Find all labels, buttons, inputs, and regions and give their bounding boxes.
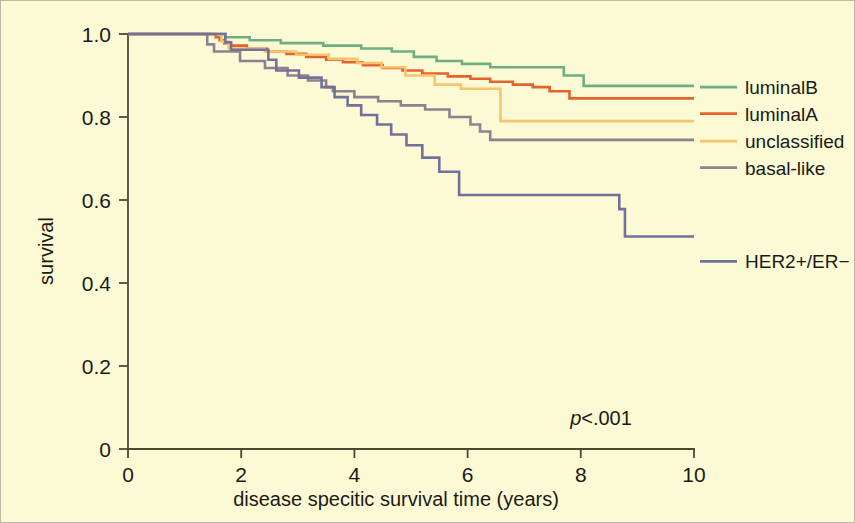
y-tick-label-0: 0	[99, 438, 111, 461]
x-tick-label-0: 0	[122, 463, 134, 486]
x-axis-title: disease specitic survival time (years)	[233, 488, 559, 510]
curve-luminalb	[128, 34, 694, 86]
y-tick-label-0.6: 0.6	[82, 189, 111, 212]
x-tick-label-6: 6	[462, 463, 474, 486]
p-value-annotation: p<.001	[569, 407, 632, 429]
x-tick-label-8: 8	[575, 463, 587, 486]
chart-plot-area: 0246810 00.20.40.60.81.0 luminalBluminal…	[1, 1, 855, 523]
y-tick-label-0.4: 0.4	[82, 272, 112, 295]
x-tick-label-2: 2	[235, 463, 247, 486]
legend-label-luminalb: luminalB	[745, 77, 818, 98]
x-tick-label-4: 4	[349, 463, 361, 486]
x-tick-label-10: 10	[682, 463, 705, 486]
p-symbol: p	[569, 407, 581, 429]
x-axis-ticks	[128, 449, 694, 458]
y-axis-ticks	[119, 34, 128, 449]
y-axis-tick-labels: 00.20.40.60.81.0	[82, 23, 112, 461]
survival-curves	[128, 34, 694, 237]
y-axis-title: survival	[35, 217, 57, 285]
p-value-rest: <.001	[581, 407, 632, 429]
y-tick-label-0.2: 0.2	[82, 355, 111, 378]
y-tick-label-1.0: 1.0	[82, 23, 111, 46]
x-axis-tick-labels: 0246810	[122, 463, 706, 486]
legend-label-luminala: luminalA	[745, 104, 818, 125]
figure-panel: 0246810 00.20.40.60.81.0 luminalBluminal…	[0, 0, 855, 523]
legend-label-unclassified: unclassified	[745, 131, 844, 152]
axes-group	[128, 34, 694, 449]
y-tick-label-0.8: 0.8	[82, 106, 111, 129]
legend-label-her2-er: HER2+/ER−	[745, 251, 850, 272]
legend: luminalBluminalAunclassifiedbasal-likeHE…	[700, 77, 850, 272]
legend-label-basal-like: basal-like	[745, 158, 825, 179]
survival-chart-svg: 0246810 00.20.40.60.81.0 luminalBluminal…	[1, 1, 855, 523]
curve-her2-er	[128, 34, 694, 237]
